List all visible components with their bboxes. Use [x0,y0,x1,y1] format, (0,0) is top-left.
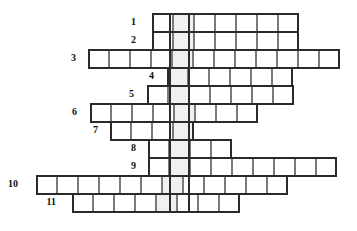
crossword-cell[interactable] [251,67,272,87]
crossword-cell[interactable] [219,193,240,213]
crossword-row-11[interactable] [72,193,240,213]
crossword-cell[interactable] [78,175,99,195]
crossword-key-cell-3[interactable] [172,49,193,69]
crossword-cell[interactable] [214,49,235,69]
crossword-cell[interactable] [232,157,253,177]
crossword-cell[interactable] [295,157,316,177]
clue-number-5: 5 [116,89,134,99]
crossword-cell[interactable] [246,175,267,195]
crossword-key-cell-5[interactable] [168,85,189,105]
crossword-cell[interactable] [211,139,232,159]
crossword-cell[interactable] [253,157,274,177]
crossword-cell[interactable] [278,31,299,51]
crossword-cell[interactable] [252,85,273,105]
crossword-cell[interactable] [204,175,225,195]
crossword-cell[interactable] [278,13,299,33]
crossword-cell[interactable] [72,193,93,213]
crossword-row-5[interactable] [147,85,294,105]
crossword-cell[interactable] [131,121,152,141]
clue-number-1: 1 [118,17,136,27]
crossword-cell[interactable] [141,175,162,195]
crossword-cell[interactable] [298,49,319,69]
crossword-cell[interactable] [256,49,277,69]
crossword-cell[interactable] [90,103,111,123]
crossword-cell[interactable] [111,103,132,123]
crossword-cell[interactable] [193,49,214,69]
crossword-cell[interactable] [225,175,246,195]
crossword-cell[interactable] [183,175,204,195]
crossword-key-cell-7[interactable] [173,121,194,141]
clue-number-8: 8 [118,143,136,153]
crossword-cell[interactable] [152,121,173,141]
crossword-cell[interactable] [274,157,295,177]
crossword-cell[interactable] [153,103,174,123]
crossword-cell[interactable] [319,49,340,69]
crossword-cell[interactable] [177,193,198,213]
crossword-cell[interactable] [272,67,293,87]
crossword-cell[interactable] [57,175,78,195]
crossword-cell[interactable] [198,193,219,213]
crossword-cell[interactable] [231,85,252,105]
clue-number-11: 11 [38,197,56,207]
crossword-cell[interactable] [277,49,298,69]
crossword-cell[interactable] [130,49,151,69]
crossword-cell[interactable] [230,67,251,87]
crossword-cell[interactable] [147,85,168,105]
crossword-key-cell-9[interactable] [169,157,190,177]
crossword-cell[interactable] [194,31,215,51]
crossword-cell[interactable] [210,85,231,105]
crossword-key-cell-6[interactable] [174,103,195,123]
crossword-key-cell-2[interactable] [173,31,194,51]
crossword-cell[interactable] [148,139,169,159]
crossword-cell[interactable] [237,103,258,123]
crossword-row-4[interactable] [167,67,293,87]
crossword-row-8[interactable] [148,139,232,159]
crossword-cell[interactable] [316,157,337,177]
crossword-row-3[interactable] [88,49,340,69]
crossword-key-cell-10[interactable] [162,175,183,195]
crossword-cell[interactable] [99,175,120,195]
crossword-cell[interactable] [132,103,153,123]
crossword-cell[interactable] [188,67,209,87]
crossword-cell[interactable] [211,157,232,177]
crossword-cell[interactable] [267,175,288,195]
crossword-cell[interactable] [236,13,257,33]
crossword-cell[interactable] [36,175,57,195]
crossword-key-cell-11[interactable] [156,193,177,213]
crossword-cell[interactable] [151,49,172,69]
crossword-cell[interactable] [135,193,156,213]
crossword-cell[interactable] [216,103,237,123]
crossword-cell[interactable] [190,139,211,159]
crossword-key-cell-1[interactable] [173,13,194,33]
crossword-cell[interactable] [190,157,211,177]
crossword-cell[interactable] [257,13,278,33]
crossword-row-9[interactable] [148,157,337,177]
crossword-key-cell-8[interactable] [169,139,190,159]
crossword-cell[interactable] [236,31,257,51]
crossword-row-7[interactable] [110,121,194,141]
crossword-key-cell-4[interactable] [167,67,188,87]
crossword-cell[interactable] [235,49,256,69]
clue-number-9: 9 [118,161,136,171]
crossword-row-1[interactable] [152,13,299,33]
crossword-cell[interactable] [273,85,294,105]
crossword-cell[interactable] [109,49,130,69]
crossword-cell[interactable] [215,31,236,51]
crossword-cell[interactable] [189,85,210,105]
crossword-cell[interactable] [257,31,278,51]
crossword-row-6[interactable] [90,103,258,123]
crossword-cell[interactable] [152,13,173,33]
crossword-cell[interactable] [194,13,215,33]
crossword-row-10[interactable] [36,175,288,195]
crossword-cell[interactable] [209,67,230,87]
crossword-cell[interactable] [114,193,135,213]
crossword-cell[interactable] [148,157,169,177]
crossword-cell[interactable] [152,31,173,51]
crossword-cell[interactable] [93,193,114,213]
crossword-row-2[interactable] [152,31,299,51]
crossword-cell[interactable] [195,103,216,123]
crossword-cell[interactable] [215,13,236,33]
crossword-cell[interactable] [88,49,109,69]
crossword-cell[interactable] [110,121,131,141]
crossword-cell[interactable] [120,175,141,195]
